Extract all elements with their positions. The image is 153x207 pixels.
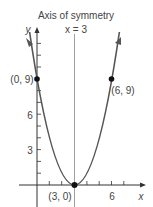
point-label-0-9: (0, 9) [10, 74, 33, 85]
point-vertex-3-0 [72, 182, 78, 188]
y-tick-3: 3 [27, 145, 33, 156]
y-ticks [37, 43, 41, 173]
point-0-9 [34, 76, 40, 82]
x-axis-arrow-icon [140, 183, 146, 188]
point-6-9 [109, 76, 115, 82]
x-tick-6: 6 [109, 191, 115, 202]
y-tick-6: 6 [27, 110, 33, 121]
symmetry-annotation: x = 3 [65, 24, 87, 35]
x-ticks [49, 181, 124, 185]
parabola-chart: Axis of symmetry x = 3 y x 6 6 3 (0, 9) … [0, 0, 153, 207]
x-axis-label: x [138, 191, 145, 202]
point-label-3-0: (3, 0) [48, 191, 71, 202]
point-label-6-9: (6, 9) [111, 85, 134, 96]
y-axis-arrow-icon [35, 27, 40, 33]
chart-title: Axis of symmetry [38, 10, 114, 21]
y-axis-label: y [25, 24, 32, 35]
